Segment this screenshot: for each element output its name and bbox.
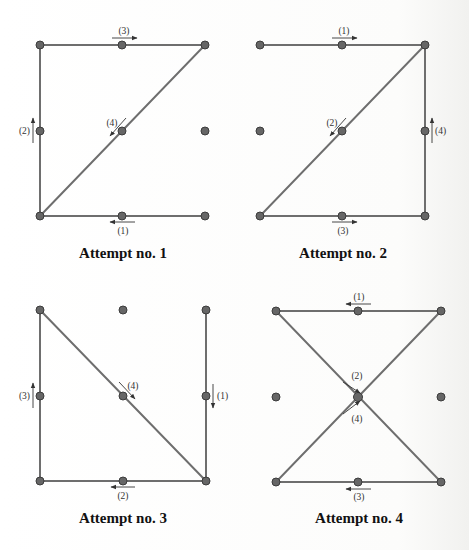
stroke-label: (1) <box>217 391 228 402</box>
stroke-label: (1) <box>338 26 349 37</box>
panel-attempt-3: (1) (2) (3) (4) Attempt no. 3 <box>19 306 228 526</box>
stroke-order-figure: (1) (2) (3) (4) Attempt no. 1 (1) (2) (3… <box>0 0 469 550</box>
panel-caption: Attempt no. 3 <box>79 510 167 526</box>
panel-caption: Attempt no. 4 <box>315 510 403 526</box>
panel-attempt-2: (1) (2) (3) (4) Attempt no. 2 <box>256 26 446 261</box>
panel-attempt-1: (1) (2) (3) (4) Attempt no. 1 <box>19 26 209 261</box>
stroke-label: (1) <box>353 292 364 303</box>
stroke-label: (4) <box>351 414 362 425</box>
stroke-label: (3) <box>337 226 348 237</box>
arrow-down-right-icon <box>343 382 360 393</box>
panel-caption: Attempt no. 1 <box>79 245 167 261</box>
stroke-label: (1) <box>117 226 128 237</box>
stroke-label: (3) <box>19 391 30 402</box>
stroke-label: (3) <box>353 492 364 503</box>
stroke-label: (4) <box>106 118 117 129</box>
panel-caption: Attempt no. 2 <box>299 245 387 261</box>
panel-attempt-4: (1) (2) (3) (4) Attempt no. 4 <box>272 292 445 526</box>
stroke-label: (4) <box>435 126 446 137</box>
stroke-label: (2) <box>326 118 337 129</box>
stroke-label: (4) <box>127 381 138 392</box>
stroke-label: (2) <box>19 126 30 137</box>
stroke-label: (3) <box>118 26 129 37</box>
stroke-label: (2) <box>351 371 362 382</box>
stroke-label: (2) <box>117 491 128 502</box>
